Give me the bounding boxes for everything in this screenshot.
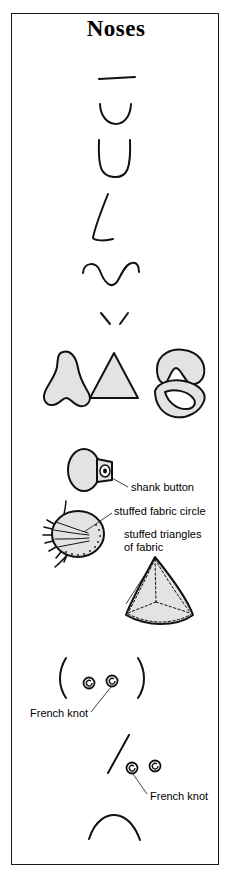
- page-border-frame: [11, 13, 219, 865]
- label-stuffed-triangles-line1: stuffed triangles: [124, 528, 201, 541]
- label-french-knot-1: French knot: [30, 707, 88, 720]
- page-title: Noses: [0, 16, 232, 42]
- label-stuffed-triangles-line2: of fabric: [124, 541, 163, 554]
- label-stuffed-fabric-circle: stuffed fabric circle: [114, 505, 206, 518]
- label-french-knot-2: French knot: [150, 790, 208, 803]
- label-shank-button: shank button: [131, 481, 194, 494]
- noses-illustration-page: Noses .stroke { fill:none; stroke:#11111…: [0, 0, 232, 879]
